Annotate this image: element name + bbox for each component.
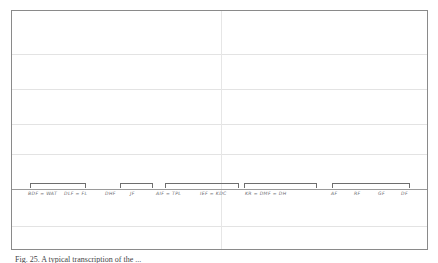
span-bracket-4 (332, 183, 410, 188)
span-bracket-2 (165, 183, 239, 188)
annotation-label-9: GF (378, 191, 386, 196)
span-bracket-0 (30, 183, 86, 188)
figure-caption: Fig. 25. A typical transcription of the … (15, 255, 415, 263)
annotation-label-3: JF (130, 191, 135, 196)
annotation-label-7: AF (331, 191, 338, 196)
annotation-label-8: RF (354, 191, 361, 196)
annotation-label-1: DLF = FL (64, 191, 88, 196)
annotation-label-6: KR = DMF = DH (245, 191, 287, 196)
span-bracket-1 (120, 183, 153, 188)
plot-frame: BDF = WATDLF = FLDHFJFAIF = TPLIEF = KDC… (11, 10, 428, 250)
annotation-layer: BDF = WATDLF = FLDHFJFAIF = TPLIEF = KDC… (12, 11, 427, 249)
annotation-label-5: IEF = KDC (200, 191, 227, 196)
annotation-label-2: DHF (105, 191, 116, 196)
annotation-label-0: BDF = WAT (28, 191, 58, 196)
figure-container: BDF = WATDLF = FLDHFJFAIF = TPLIEF = KDC… (0, 0, 438, 263)
annotation-label-10: DF (401, 191, 409, 196)
annotation-label-4: AIF = TPL (156, 191, 182, 196)
span-bracket-3 (244, 183, 317, 188)
